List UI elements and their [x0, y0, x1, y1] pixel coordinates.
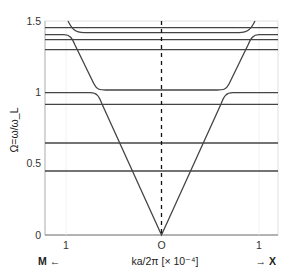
y-tick-1.5: 1.5 [26, 15, 41, 27]
x-left-direction-label: M ← [38, 255, 60, 267]
x-right-direction-label: → X [256, 255, 276, 267]
x-tick-origin: O [157, 239, 165, 251]
dispersion-chart: 1.5 1 0.5 0 1 O 1 M ← ka/2π [× 10⁻⁴] → X… [0, 0, 305, 276]
y-tick-1: 1 [35, 86, 41, 98]
x-tick-right-1: 1 [256, 239, 262, 251]
x-tick-left-1: 1 [63, 239, 69, 251]
y-tick-0: 0 [35, 229, 41, 241]
x-axis-label: ka/2π [× 10⁻⁴] [131, 255, 198, 267]
y-tick-0.5: 0.5 [26, 157, 41, 169]
y-axis-label: Ω=ω/ω_L [8, 107, 20, 152]
